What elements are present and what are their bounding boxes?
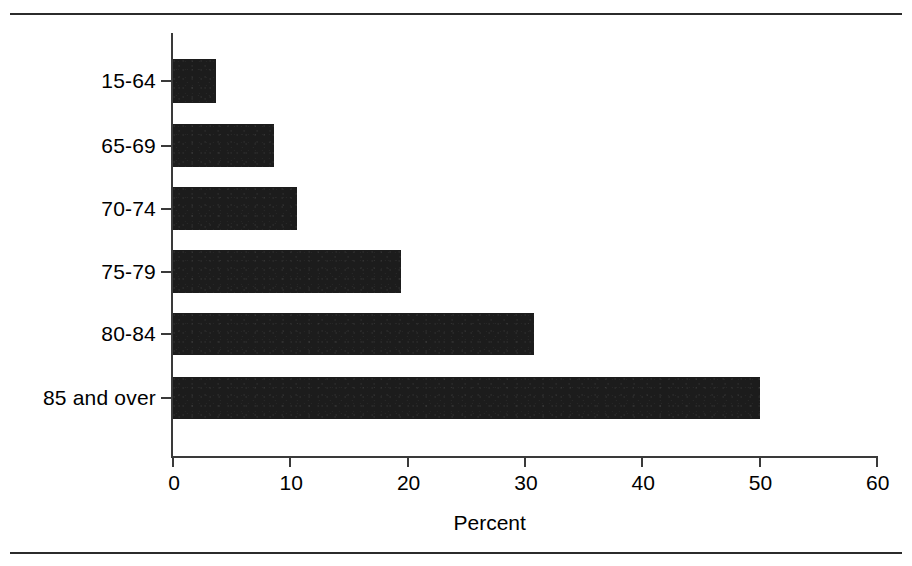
bar-80-84[interactable] (173, 313, 534, 355)
y-axis-tick-label: 75-79 (0, 261, 156, 282)
y-axis-tick (161, 271, 172, 273)
y-axis-tick (161, 145, 172, 147)
bar-fill (173, 124, 274, 167)
x-axis-tick-label: 40 (613, 472, 673, 494)
y-axis-tick (161, 333, 172, 335)
y-axis-tick-label: 15-64 (0, 70, 156, 91)
bar-chart-plot-area: 15-6465-6970-7475-7980-8485 and over0102… (0, 0, 912, 566)
y-axis-tick-label: 85 and over (0, 387, 156, 408)
y-axis-tick-label: 70-74 (0, 198, 156, 219)
x-axis-tick (407, 456, 409, 467)
bar-fill (173, 377, 760, 419)
x-axis-tick (289, 456, 291, 467)
bar-65-69[interactable] (173, 124, 274, 167)
y-axis-tick (161, 80, 172, 82)
x-axis-tick-label: 60 (848, 472, 908, 494)
y-axis-tick (161, 397, 172, 399)
bar-75-79[interactable] (173, 250, 401, 293)
bar-15-64[interactable] (173, 59, 216, 103)
bar-fill (173, 313, 534, 355)
x-axis-title: Percent (390, 512, 590, 534)
x-axis-tick (172, 456, 174, 467)
bar-fill (173, 59, 216, 103)
bar-fill (173, 250, 401, 293)
x-axis-tick (641, 456, 643, 467)
x-axis-tick (524, 456, 526, 467)
y-axis-tick-label: 65-69 (0, 135, 156, 156)
x-axis-tick (876, 456, 878, 467)
x-axis-tick-label: 20 (379, 472, 439, 494)
x-axis-tick-label: 30 (496, 472, 556, 494)
x-axis-tick (759, 456, 761, 467)
x-axis-tick-label: 10 (261, 472, 321, 494)
y-axis-tick-label: 80-84 (0, 323, 156, 344)
bar-85-and-over[interactable] (173, 377, 760, 419)
bar-fill (173, 187, 297, 230)
x-axis-tick-label: 0 (144, 472, 204, 494)
bar-70-74[interactable] (173, 187, 297, 230)
y-axis-tick (161, 208, 172, 210)
x-axis-tick-label: 50 (731, 472, 791, 494)
